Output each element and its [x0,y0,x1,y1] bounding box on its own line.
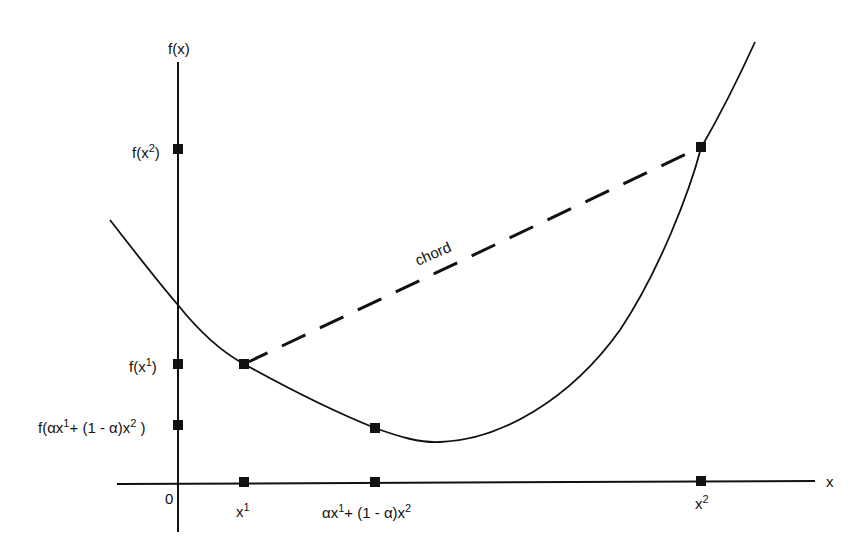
chord-label: chord [412,238,453,269]
origin-label: 0 [165,490,173,507]
y-tick-f-x2: f(x2) [132,142,160,161]
x-tick-x2: x2 [695,493,709,512]
y-axis-label: f(x) [168,40,190,57]
x-axis [117,481,815,484]
marker-f-x2 [173,144,183,154]
marker-x2 [696,476,706,486]
marker-curve-combo [370,423,380,433]
y-tick-f-combo: f(αx1+ (1 - α)x2 ) [38,417,146,436]
marker-f-combo [173,420,183,430]
marker-combo [370,477,380,487]
convexity-diagram: f(x) x 0 f(x2) f(x1) f(αx1+ (1 - α)x2 ) … [0,0,867,557]
marker-f-x1 [173,359,183,369]
convex-function-curve [110,42,755,442]
chord-line [244,147,701,364]
marker-curve-x1 [239,359,249,369]
x-tick-combo: αx1+ (1 - α)x2 [322,502,411,521]
marker-curve-x2 [696,142,706,152]
marker-x1 [239,477,249,487]
x-tick-x1: x1 [236,501,250,520]
y-tick-f-x1: f(x1) [129,356,157,375]
x-axis-label: x [826,473,834,490]
